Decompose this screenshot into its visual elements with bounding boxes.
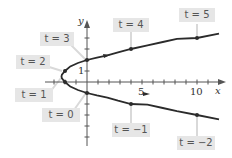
x-tick-label-5: 5 xyxy=(138,87,144,97)
label-t-minus-2: t = −2 xyxy=(177,136,215,150)
label-t-0: t = 0 xyxy=(42,108,80,122)
x-tick-label-10: 10 xyxy=(190,87,203,97)
label-t-2: t = 2 xyxy=(16,55,50,69)
curve-points xyxy=(63,36,199,117)
point-t-3 xyxy=(85,58,89,62)
y-axis-arrow-icon xyxy=(84,20,90,28)
point-t-2 xyxy=(63,69,67,73)
x-axis-label: x xyxy=(215,86,221,96)
parametric-curve xyxy=(62,34,220,120)
y-tick-label-1: 1 xyxy=(78,66,84,76)
y-axis-label: y xyxy=(78,16,84,26)
label-t-minus-1: t = −1 xyxy=(112,123,150,137)
label-t-5: t = 5 xyxy=(179,8,215,22)
label-t-1: t = 1 xyxy=(15,88,53,102)
label-t-4: t = 4 xyxy=(113,18,149,32)
x-axis xyxy=(45,80,222,85)
point-t-1 xyxy=(63,80,67,84)
point-t-0 xyxy=(85,91,89,95)
point-t-minus-2 xyxy=(195,113,199,117)
point-t-4 xyxy=(129,47,133,51)
point-t-minus-1 xyxy=(129,102,133,106)
y-axis xyxy=(85,24,90,146)
point-t-5 xyxy=(195,36,199,40)
label-t-3: t = 3 xyxy=(40,32,74,46)
